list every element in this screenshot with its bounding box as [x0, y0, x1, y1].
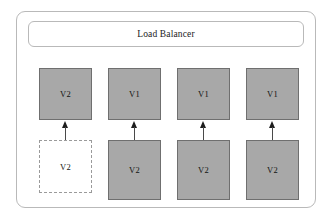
- bottom-instance-1-label: V2: [60, 162, 71, 172]
- bottom-instance-4: V2: [246, 140, 299, 200]
- top-instance-3-label: V1: [198, 89, 209, 99]
- bottom-instance-3: V2: [177, 140, 230, 200]
- top-instance-2: V1: [108, 68, 161, 120]
- diagram-canvas: Load Balancer V2 V1 V1 V1 V2 V2 V2 V2: [0, 0, 331, 221]
- bottom-instance-1: V2: [39, 140, 92, 193]
- top-instance-4-label: V1: [267, 89, 278, 99]
- load-balancer-label: Load Balancer: [137, 29, 195, 39]
- bottom-instance-2: V2: [108, 140, 161, 200]
- top-instance-3: V1: [177, 68, 230, 120]
- load-balancer-node: Load Balancer: [28, 21, 304, 47]
- top-instance-4: V1: [246, 68, 299, 120]
- bottom-instance-4-label: V2: [267, 165, 278, 175]
- top-instance-1: V2: [39, 68, 92, 120]
- top-instance-1-label: V2: [60, 89, 71, 99]
- bottom-instance-3-label: V2: [198, 165, 209, 175]
- bottom-instance-2-label: V2: [129, 165, 140, 175]
- top-instance-2-label: V1: [129, 89, 140, 99]
